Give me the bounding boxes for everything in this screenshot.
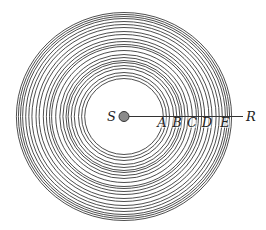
point-label-a: A <box>156 115 166 130</box>
point-label-c: C <box>187 115 197 130</box>
point-label-d: D <box>201 115 213 130</box>
source-dot-icon <box>119 112 129 122</box>
wave-diagram: S R ABCDE <box>0 0 266 230</box>
point-label-b: B <box>171 115 182 130</box>
receiver-label: R <box>245 109 256 124</box>
wave-diagram-canvas: S R ABCDE <box>0 0 266 230</box>
point-label-e: E <box>219 115 230 130</box>
source-label: S <box>107 109 116 124</box>
